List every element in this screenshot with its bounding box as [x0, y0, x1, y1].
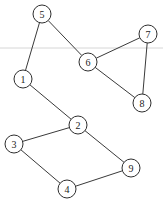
- graph-diagram: 123456789: [0, 0, 163, 207]
- node-label: 2: [76, 120, 81, 131]
- node-layer: 123456789: [5, 5, 157, 198]
- node-label: 9: [129, 163, 134, 174]
- node-label: 1: [21, 74, 26, 85]
- node-3: 3: [5, 135, 23, 153]
- node-label: 4: [65, 184, 70, 195]
- node-9: 9: [122, 159, 140, 177]
- node-5: 5: [33, 5, 51, 23]
- edge-4-9: [76, 171, 123, 186]
- edge-3-4: [21, 150, 60, 183]
- edge-5-1: [26, 23, 40, 71]
- node-1: 1: [14, 70, 32, 88]
- edge-2-9: [85, 131, 124, 163]
- edge-2-3: [23, 128, 70, 142]
- edge-5-6: [48, 21, 82, 56]
- node-label: 6: [86, 57, 91, 68]
- edge-6-8: [95, 67, 135, 97]
- node-2: 2: [69, 116, 87, 134]
- node-4: 4: [58, 180, 76, 198]
- node-label: 3: [12, 139, 17, 150]
- node-label: 7: [146, 29, 151, 40]
- node-7: 7: [139, 25, 157, 43]
- node-label: 5: [40, 9, 45, 20]
- node-label: 8: [140, 98, 145, 109]
- node-6: 6: [79, 53, 97, 71]
- edge-1-2: [30, 85, 71, 119]
- edge-7-8: [143, 43, 147, 94]
- node-8: 8: [133, 94, 151, 112]
